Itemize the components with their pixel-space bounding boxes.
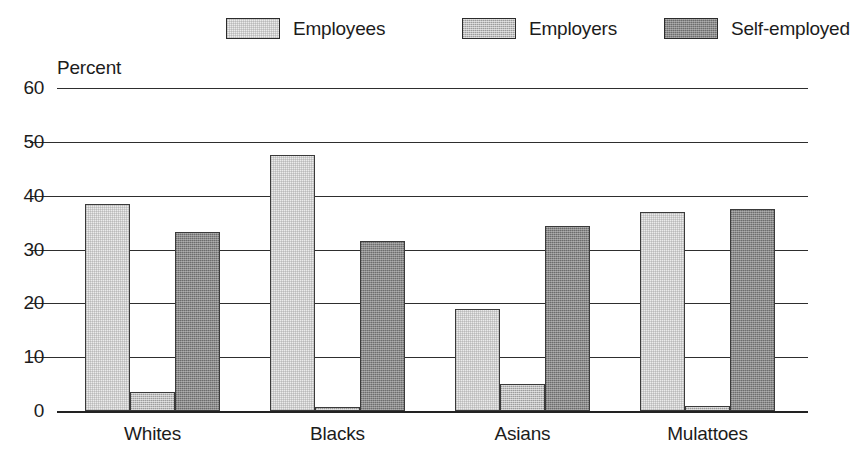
legend-label-self-employed: Self-employed	[731, 19, 850, 38]
gridline-20	[57, 303, 808, 304]
gridline-10	[57, 357, 808, 358]
bar-asians-self-employed	[545, 226, 590, 411]
bar-asians-employees	[455, 309, 500, 411]
y-axis-tick-label-50: 50	[0, 132, 44, 151]
legend-swatch-employees	[226, 18, 280, 39]
legend-label-employers: Employers	[529, 19, 617, 38]
legend-swatch-employers	[462, 18, 516, 39]
bar-whites-self-employed	[175, 232, 220, 411]
bar-blacks-self-employed	[360, 241, 405, 411]
y-axis-tick-label-20: 20	[0, 293, 44, 312]
gridline-40	[57, 196, 808, 197]
y-axis-tick-label-0: 0	[0, 401, 44, 420]
legend-entry-employers: Employers	[462, 14, 617, 42]
legend-label-employees: Employees	[293, 19, 385, 38]
bar-whites-employees	[85, 204, 130, 411]
x-axis-tick-label-asians: Asians	[443, 424, 603, 443]
bar-mulattoes-employees	[640, 212, 685, 411]
gridline-30	[57, 250, 808, 251]
y-axis-tick-label-10: 10	[0, 347, 44, 366]
bar-whites-employers	[130, 392, 175, 411]
x-axis-tick-label-mulattoes: Mulattoes	[628, 424, 788, 443]
y-axis-tick-label-30: 30	[0, 240, 44, 259]
legend-entry-employees: Employees	[226, 14, 385, 42]
legend-swatch-self-employed	[664, 18, 718, 39]
x-axis-tick-label-blacks: Blacks	[258, 424, 418, 443]
y-axis-tick-label-60: 60	[0, 78, 44, 97]
chart-legend: Employees Employers Self-employed	[0, 14, 823, 44]
y-axis-tick-label-40: 40	[0, 186, 44, 205]
bar-asians-employers	[500, 384, 545, 411]
bar-mulattoes-employers	[685, 406, 730, 411]
legend-entry-self-employed: Self-employed	[664, 14, 850, 42]
axis-baseline	[57, 411, 808, 413]
gridline-60	[57, 88, 808, 89]
x-axis-tick-label-whites: Whites	[73, 424, 233, 443]
bar-mulattoes-self-employed	[730, 209, 775, 411]
y-axis-title: Percent	[57, 58, 121, 77]
bar-blacks-employees	[270, 155, 315, 411]
gridline-50	[57, 142, 808, 143]
bar-blacks-employers	[315, 407, 360, 411]
